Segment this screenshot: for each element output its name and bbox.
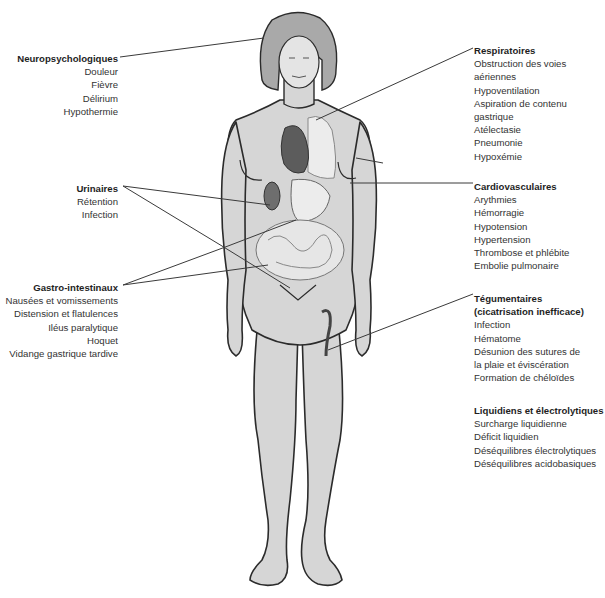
group-title: Urinaires — [76, 182, 118, 195]
group-neuropsychologiques: Neuropsychologiques Douleur Fièvre Délir… — [17, 52, 118, 118]
list-item: Obstruction des voies — [474, 57, 604, 70]
list-item: Embolie pulmonaire — [474, 259, 604, 272]
list-item: Hoquet — [5, 334, 118, 347]
list-item: Distension et flatulences — [5, 307, 118, 320]
list-item: Infection — [474, 318, 604, 331]
list-item: Nausées et vomissements — [5, 294, 118, 307]
group-title: Liquidiens et électrolytiques — [474, 404, 604, 417]
list-item: gastrique — [474, 110, 604, 123]
list-item: Hématome — [474, 332, 604, 345]
list-item: Hypothermie — [17, 105, 118, 118]
group-liquidiens-electrolytiques: Liquidiens et électrolytiques Surcharge … — [474, 404, 604, 470]
face — [279, 36, 319, 88]
list-item: Formation de chéloïdes — [474, 371, 604, 384]
list-item: Rétention — [76, 195, 118, 208]
group-tegumentaires: Tégumentaires (cicatrisation inefficace)… — [474, 292, 604, 384]
list-item: Fièvre — [17, 78, 118, 91]
list-item: Hypoxémie — [474, 150, 604, 163]
list-item: Aspiration de contenu — [474, 97, 604, 110]
list-item: Déficit liquidien — [474, 430, 604, 443]
list-item: Délirium — [17, 92, 118, 105]
list-item: Surcharge liquidienne — [474, 417, 604, 430]
left-leg — [250, 320, 298, 585]
list-item: Hypotension — [474, 220, 604, 233]
list-item: Hémorragie — [474, 206, 604, 219]
list-item: Infection — [76, 208, 118, 221]
group-gastro-intestinaux: Gastro-intestinaux Nausées et vomissemen… — [5, 281, 118, 360]
left-arm — [222, 122, 246, 356]
list-item: Iléus paralytique — [5, 321, 118, 334]
group-title: Respiratoires — [474, 44, 604, 57]
group-title: Gastro-intestinaux — [5, 281, 118, 294]
list-item: Pneumonie — [474, 136, 604, 149]
group-title: Neuropsychologiques — [17, 52, 118, 65]
list-item: Déséquilibres électrolytiques — [474, 444, 604, 457]
list-item: Thrombose et phlébite — [474, 246, 604, 259]
kidney — [264, 182, 280, 210]
group-respiratoires: Respiratoires Obstruction des voies aéri… — [474, 44, 604, 163]
list-item: la plaie et éviscération — [474, 358, 604, 371]
intestines — [256, 220, 344, 280]
group-title: Cardiovasculaires — [474, 180, 604, 193]
list-item: Désunion des sutures de — [474, 345, 604, 358]
group-title: Tégumentaires — [474, 292, 604, 305]
list-item: aériennes — [474, 70, 604, 83]
right-leg — [302, 320, 343, 585]
group-subtitle: (cicatrisation inefficace) — [474, 305, 604, 318]
postoperative-complications-diagram: Neuropsychologiques Douleur Fièvre Délir… — [0, 0, 605, 598]
list-item: Vidange gastrique tardive — [5, 347, 118, 360]
list-item: Déséquilibres acidobasiques — [474, 457, 604, 470]
list-item: Arythmies — [474, 193, 604, 206]
list-item: Douleur — [17, 65, 118, 78]
list-item: Hypoventilation — [474, 84, 604, 97]
group-urinaires: Urinaires Rétention Infection — [76, 182, 118, 222]
group-cardiovasculaires: Cardiovasculaires Arythmies Hémorragie H… — [474, 180, 604, 272]
list-item: Atélectasie — [474, 123, 604, 136]
right-arm — [352, 122, 376, 356]
list-item: Hypertension — [474, 233, 604, 246]
